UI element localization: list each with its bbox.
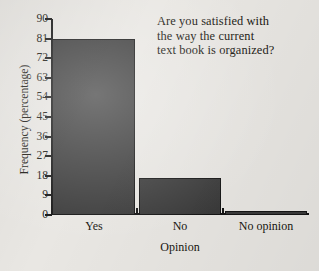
y-axis-tick-mark (45, 175, 52, 177)
x-axis-tick-labels: YesNoNo opinion (51, 219, 309, 237)
y-axis-tick-mark (45, 116, 52, 118)
bar-chart: Are you satisfied with the way the curre… (0, 0, 319, 271)
bar-no (139, 178, 221, 215)
y-axis-tick-mark (45, 38, 52, 40)
x-axis-tick-label: No (173, 219, 188, 234)
y-axis-tick-mark (45, 77, 52, 79)
bar-yes (52, 39, 135, 215)
y-axis-tick-mark (45, 136, 52, 138)
y-axis-tick-mark (45, 214, 52, 216)
x-axis-tick-mark (222, 208, 224, 215)
x-axis-tick-mark (136, 208, 138, 215)
x-axis-tick-label: Yes (85, 219, 102, 234)
y-axis-tick-mark (45, 57, 52, 59)
x-axis-tick-label: No opinion (239, 219, 293, 234)
y-axis-tick-mark (45, 155, 52, 157)
y-axis-tick-mark (45, 96, 52, 98)
x-axis-title: Opinion (51, 240, 309, 255)
y-axis-tick-mark (45, 194, 52, 196)
y-axis-tick-mark (45, 18, 52, 20)
plot-area (51, 19, 309, 215)
bar-no-opinion (225, 211, 307, 215)
